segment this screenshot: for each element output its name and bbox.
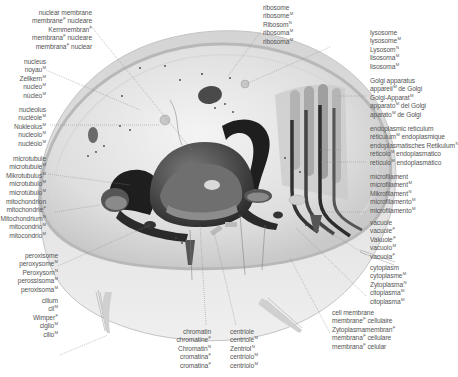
label-ribosome: ribosome ribosomeM RibosomN ribosomaM ri… <box>263 4 293 46</box>
label-text: Golgi-Apparat <box>370 94 409 101</box>
label-text: microtubule <box>9 163 42 170</box>
label-text: cil <box>48 305 54 312</box>
label-peroxisome: peroxisome peroxysomeM PeroxysomN peross… <box>18 252 58 294</box>
label-text: chromatin <box>183 328 211 335</box>
label-text: nuclear membrane <box>39 9 92 16</box>
label-text: membrane <box>332 317 363 324</box>
label-text: vacuola <box>370 253 392 260</box>
label-text: Zytoplasmamembran <box>332 326 392 333</box>
label-text: mitochondrie <box>6 206 43 213</box>
label-text: retículoM endoplasmático <box>370 159 458 167</box>
gender-marker: M <box>408 180 411 185</box>
label-text: membranaF celular <box>332 343 395 351</box>
label-text: membrane <box>32 17 63 24</box>
label-text: microfilament <box>370 181 408 188</box>
label-text: membraneF cellulaire <box>332 317 395 325</box>
label-text: lisosomaM <box>370 63 401 71</box>
gender-marker: M <box>290 28 293 33</box>
label-nucleolus: nucleolus nucléoleM NukleolusM nucleoloM… <box>14 106 46 148</box>
label-line: membranaF nucleare <box>32 34 92 42</box>
label-text: microfilamento <box>370 207 411 214</box>
label-text: nuclear <box>69 43 92 50</box>
label-text: retículo <box>370 159 391 166</box>
label-text: Mikrofilament <box>370 190 408 197</box>
gender-marker: M <box>43 113 46 118</box>
label-text: ZentriolN <box>230 345 258 353</box>
gender-marker: M <box>255 352 258 357</box>
label-text: cytoplasm <box>370 264 399 271</box>
label-text: ChromatinN <box>176 345 211 353</box>
label-text: nucléoloM <box>14 140 46 148</box>
label-text: Peroxysom <box>22 269 54 276</box>
label-text: Lysosom <box>370 46 395 53</box>
gender-marker: M <box>43 91 46 96</box>
label-text: cilM <box>33 305 58 313</box>
label-text: lysosome <box>370 29 397 36</box>
label-text: MikrotubulusM <box>6 172 46 180</box>
label-text: aparatoM de Golgi <box>370 111 426 119</box>
gender-marker: M <box>401 288 404 293</box>
label-text: endoplasmique <box>400 133 445 140</box>
label-text: membrana <box>332 334 363 341</box>
label-text: ribosoma <box>263 29 289 36</box>
label-cell-membrane: cell membrane membraneF cellulaire Zytop… <box>332 309 395 351</box>
label-text: membrana <box>332 343 363 350</box>
label-text: cell membrane <box>332 309 374 316</box>
gender-marker: F <box>90 25 92 30</box>
gender-marker: F <box>393 252 395 257</box>
label-text: citoplasma <box>370 289 401 296</box>
label-text: reticoloM endoplasmatico <box>370 150 458 158</box>
label-text: lisosoma <box>370 63 395 70</box>
label-text: cellulaire <box>366 317 393 324</box>
gender-marker: N <box>43 214 46 219</box>
gender-marker: F <box>209 361 211 366</box>
label-text: endoplasmatico <box>394 150 441 157</box>
label-centriole: centriole centrioleM ZentriolN centriolo… <box>230 328 258 370</box>
label-text: cromatinaF <box>176 362 211 370</box>
gender-marker: M <box>55 285 58 290</box>
gender-marker: M <box>410 93 413 98</box>
gender-marker: M <box>55 304 58 309</box>
label-text: nucleolo <box>18 131 42 138</box>
label-text: reticolo <box>370 150 390 157</box>
label-text: nucléole <box>18 114 42 121</box>
label-text: PeroxysomN <box>18 269 58 277</box>
label-text: Vakuole <box>370 236 393 243</box>
label-text: cellulare <box>366 334 391 341</box>
label-text: citoplasmaM <box>370 298 407 306</box>
gender-marker: M <box>290 11 293 16</box>
label-text: microtubule <box>13 155 46 162</box>
label-text: ribosomaM <box>263 38 293 46</box>
label-text: mitocondrio <box>9 223 42 230</box>
gender-marker: N <box>55 268 58 273</box>
label-text: nucléoleM <box>14 114 46 122</box>
label-text: cromatina <box>180 353 208 360</box>
label-text: nucléolo <box>18 140 42 147</box>
gender-marker: N <box>289 20 292 25</box>
label-text: microtúbuloM <box>6 189 46 197</box>
label-text: peroxysomeM <box>18 260 58 268</box>
gender-marker: M <box>43 222 46 227</box>
label-text: mitochondrion <box>6 198 46 205</box>
label-text: perossisomaM <box>18 277 58 285</box>
label-text: centriole <box>230 328 254 335</box>
label-text: ribosome <box>263 12 289 19</box>
label-text: del Golgi <box>399 102 426 109</box>
label-nuclear-membrane: nuclear membrane membraneF nucleare Kern… <box>32 9 92 51</box>
label-microfilament: microfilament microfilamentM Mikrofilame… <box>370 173 415 215</box>
label-text: vacuole <box>370 219 392 226</box>
gender-marker: M <box>55 321 58 326</box>
label-text: mitocondrio <box>9 232 42 239</box>
gender-marker: F <box>209 352 211 357</box>
label-text: RibosomN <box>263 21 293 29</box>
label-text: MitochondriumN <box>1 215 46 223</box>
label-text: núcleo <box>23 92 42 99</box>
label-line: membraneF nucleare <box>32 17 92 25</box>
label-text: Ribosom <box>263 21 288 28</box>
label-text: cytoplasme <box>370 272 402 279</box>
label-text: centrioloM <box>230 362 258 370</box>
label-text: lysosome <box>370 37 397 44</box>
label-text: Zytoplasma <box>370 281 403 288</box>
label-line: membranaF nuclear <box>32 43 92 51</box>
label-lysosome: lysosome lysosomeM LysosomN lisosomaM li… <box>370 29 401 71</box>
